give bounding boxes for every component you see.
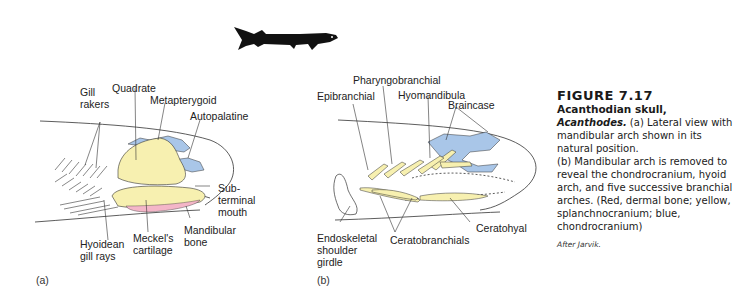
label-autopalatine: Autopalatine (190, 110, 248, 122)
label-epibranchial: Epibranchial (317, 90, 375, 102)
label-gill-rakers: Gill rakers (80, 86, 109, 110)
caption-b: (b) Mandibular arch is removed to reveal… (557, 155, 737, 233)
label-pharyngobranchial: Pharyngobranchial (353, 74, 441, 86)
label-quadrate: Quadrate (112, 82, 156, 94)
figure-title: Acanthodian skull, (557, 103, 737, 116)
panel-b-label: (b) (317, 274, 330, 286)
panel-a-label: (a) (36, 274, 49, 286)
genus-name: Acanthodes. (557, 117, 627, 128)
label-ceratobranchials: Ceratobranchials (390, 234, 469, 246)
label-meckels-cartilage: Meckel's cartilage (133, 232, 174, 256)
label-ceratohyal: Ceratohyal (476, 222, 527, 234)
label-hyoidean-gill-rays: Hyoidean gill rays (80, 238, 124, 262)
label-metapterygoid: Metapterygoid (150, 94, 217, 106)
figure-caption: FIGURE 7.17 Acanthodian skull, Acanthode… (557, 88, 737, 249)
label-subterminal-mouth: Sub- terminal mouth (218, 182, 255, 218)
caption-a: Acanthodes. (a) Lateral view with mandib… (557, 116, 737, 155)
label-braincase: Braincase (448, 99, 495, 111)
figure-credit: After Jarvik. (557, 240, 737, 249)
figure-number: FIGURE 7.17 (557, 88, 737, 103)
label-endoskeletal-shoulder-girdle: Endoskeletal shoulder girdle (317, 232, 377, 268)
label-mandibular-bone: Mandibular bone (184, 224, 236, 248)
